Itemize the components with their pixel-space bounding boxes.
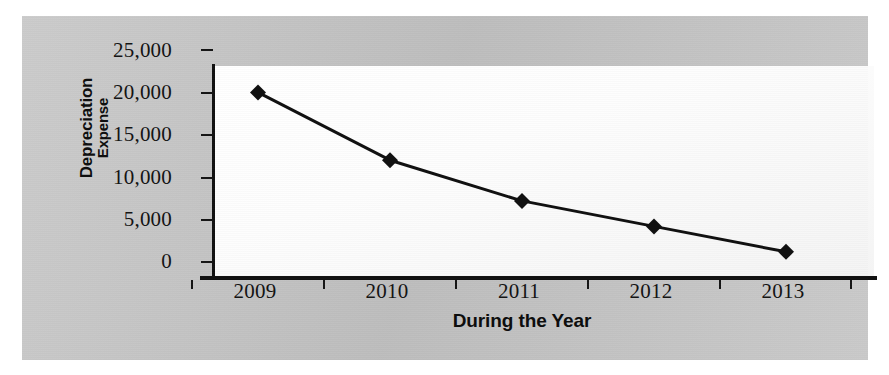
data-point-marker	[778, 244, 794, 260]
data-point-marker	[514, 193, 530, 209]
data-point-marker	[250, 84, 266, 100]
chart-figure: Depreciation Expense 25,000 20,000 15,00…	[0, 0, 889, 375]
data-point-marker	[646, 218, 662, 234]
data-point-marker	[382, 152, 398, 168]
data-series-layer	[0, 0, 889, 375]
series-line	[258, 92, 786, 251]
